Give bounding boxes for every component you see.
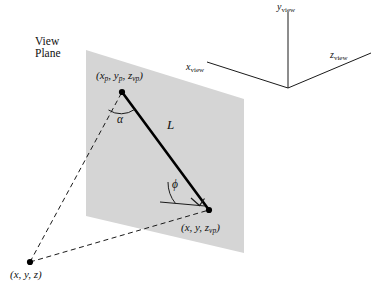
label-angle-alpha: α (117, 113, 123, 125)
label-length-L: L (167, 118, 174, 132)
label-projected-t1: , y (108, 69, 118, 81)
view-plane-caption: View Plane (35, 35, 61, 59)
point-dot-plane (206, 207, 212, 213)
label-axis-y-view: yview (277, 2, 295, 14)
label-angle-phi: ϕ (172, 178, 178, 190)
label-axis-y-sub: view (281, 6, 295, 14)
label-world-point: (x, y, z) (10, 269, 42, 281)
label-axis-z-sub: view (334, 54, 348, 62)
label-projected-point: (xp, yp, zvp) (96, 70, 143, 83)
label-axis-x-view: xview (186, 62, 204, 74)
point-dot-projected (119, 89, 125, 95)
view-plane-caption-line1: View (35, 35, 61, 47)
label-axis-x-sub: view (190, 66, 204, 74)
label-projected-t2: , z (122, 69, 132, 81)
label-plane-base: (x, y, z (181, 221, 209, 233)
label-plane-point: (x, y, zvp) (181, 222, 220, 235)
label-projected-t3: ) (139, 69, 143, 81)
label-axis-z-view: zview (330, 50, 348, 62)
x-view-axis-line (207, 62, 288, 88)
diagram-canvas: View Plane (xp, yp, zvp) (x, y, zvp) (x,… (0, 0, 374, 295)
point-dot-world (27, 259, 33, 265)
label-plane-t1: ) (216, 221, 220, 233)
view-plane-caption-line2: Plane (35, 47, 61, 59)
label-projected-base: (x (96, 69, 105, 81)
